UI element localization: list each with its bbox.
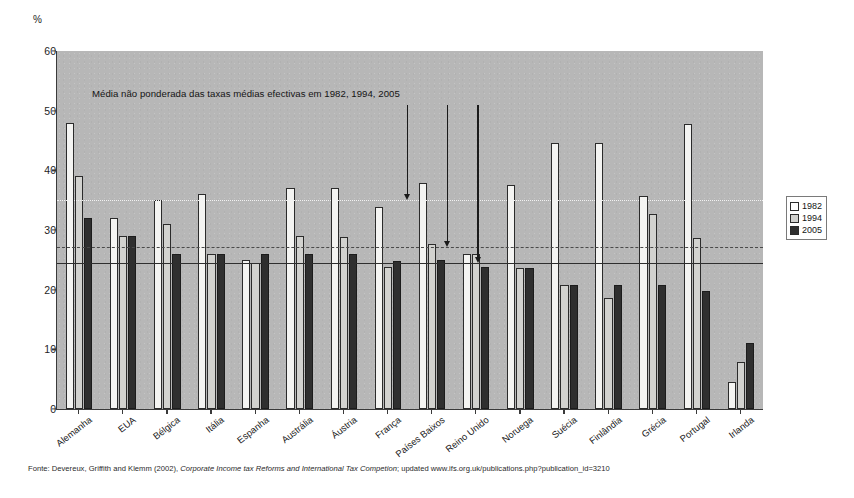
bar-1994 [560,285,568,409]
bar-group [198,51,225,409]
x-axis-label-noruega: Noruega [500,414,535,445]
bar-2005 [570,285,578,409]
bar-group [595,51,622,409]
bar-1982 [66,123,74,409]
legend-swatch-1994 [790,214,799,223]
bar-group [154,51,181,409]
x-axis-labels: AlemanhaEUABélgicaItáliaEspanhaAustrália… [56,414,776,464]
bar-group [286,51,313,409]
bar-groups [57,51,763,409]
bar-2005 [305,254,313,409]
bar-1994 [251,263,259,409]
bar-1982 [331,188,339,409]
x-axis-label-reino-unido: Reino Unido [444,414,491,454]
legend-swatch-2005 [790,226,799,235]
bar-1994 [737,362,745,409]
x-axis-label-irlanda: Irlanda [726,414,755,440]
bar-1982 [551,143,559,409]
legend: 1982 1994 2005 [786,196,827,240]
x-axis-label-bélgica: Bélgica [151,414,182,442]
bar-2005 [393,261,401,409]
x-axis-label-frança: França [373,414,403,441]
bar-1982 [595,143,603,409]
bar-1982 [198,194,206,409]
bar-1982 [684,124,692,409]
annotation-arrow-1982 [407,105,408,195]
legend-label-1982: 1982 [802,202,822,211]
x-axis-label-austrália: Austrália [279,414,315,445]
bar-1994 [472,254,480,409]
reference-line-2005 [57,263,763,264]
bar-1994 [384,267,392,409]
bar-group [551,51,578,409]
bar-group [331,51,358,409]
bar-group [242,51,269,409]
bar-2005 [746,343,754,409]
bar-2005 [525,268,533,409]
plot-area [56,51,763,410]
bar-1994 [207,254,215,409]
x-axis-label-alemanha: Alemanha [54,414,94,449]
bar-group [375,51,402,409]
bar-1994 [649,214,657,409]
annotation-label: Média não ponderada das taxas médias efe… [92,88,400,99]
bar-group [507,51,534,409]
x-axis-label-áustria: Áustria [329,414,359,441]
y-axis-unit-label: % [33,14,42,25]
bar-1994 [163,224,171,409]
x-axis-label-portugal: Portugal [677,414,711,444]
source-note: Fonte: Devereux, Griffith and Klemm (200… [28,464,610,473]
bar-2005 [261,254,269,409]
legend-item-2005: 2005 [790,224,822,236]
x-axis-label-finlândia: Finlândia [587,414,624,446]
bar-1982 [728,382,736,409]
legend-label-2005: 2005 [802,226,822,235]
x-axis-label-espanha: Espanha [234,414,270,445]
source-suffix: ; updated www.ifs.org.uk/publications.ph… [397,464,610,473]
legend-label-1994: 1994 [802,214,822,223]
annotation-arrow-1994 [447,105,448,242]
reference-line-1994 [57,247,763,248]
bar-group [110,51,137,409]
bar-1982 [242,260,250,409]
bar-1982 [639,196,647,409]
bar-2005 [217,254,225,409]
bar-2005 [658,285,666,409]
x-axis-label-grécia: Grécia [639,414,668,440]
source-prefix: Fonte: Devereux, Griffith and Klemm (200… [28,464,180,473]
bar-1982 [375,207,383,409]
bar-2005 [437,260,445,409]
legend-item-1994: 1994 [790,212,822,224]
source-title: Corporate Income tax Reforms and Interna… [180,464,397,473]
bar-2005 [702,291,710,409]
x-axis-label-suécia: Suécia [550,414,579,440]
x-axis-label-eua: EUA [116,414,138,435]
bar-group [66,51,93,409]
bar-1994 [428,244,436,409]
bar-2005 [481,267,489,409]
bar-group [419,51,446,409]
bar-2005 [349,254,357,409]
bar-group [639,51,666,409]
y-axis-ticks: 0102030405060 [24,51,56,409]
bar-1982 [507,185,515,409]
reference-line-1982 [57,200,763,201]
bar-1982 [154,200,162,409]
tax-rates-bar-chart-figure: % 0102030405060 AlemanhaEUABélgicaItália… [0,0,854,498]
bar-2005 [172,254,180,409]
bar-group [728,51,755,409]
bar-group [684,51,711,409]
bar-1982 [286,188,294,409]
bar-1994 [516,268,524,409]
bar-2005 [614,285,622,409]
bar-group [463,51,490,409]
legend-swatch-1982 [790,202,799,211]
bar-1982 [463,254,471,409]
bar-1994 [75,176,83,409]
bar-1994 [604,298,612,409]
x-axis-label-itália: Itália [204,414,226,435]
bar-1982 [419,183,427,409]
annotation-arrow-2005 [477,105,478,258]
legend-item-1982: 1982 [790,200,822,212]
